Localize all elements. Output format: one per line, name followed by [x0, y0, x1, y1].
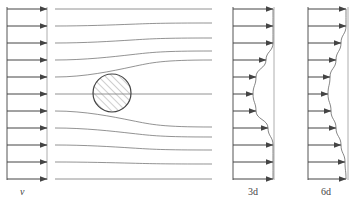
streamline: [55, 51, 212, 60]
streamline: [55, 60, 212, 77]
wake-6d-label: 6d: [321, 186, 331, 197]
cylinder-obstacle: [93, 74, 131, 112]
wake-profile-6d: [308, 7, 348, 180]
wake-profile-3d: [233, 7, 274, 180]
inlet-velocity-label: v: [20, 186, 25, 197]
streamline: [55, 111, 212, 127]
streamline: [55, 128, 212, 137]
velocity-profile-curve: [253, 9, 273, 179]
wake-3d-label: 3d: [248, 186, 258, 197]
cylinder-flow-diagram: v 3d 6d: [0, 0, 354, 201]
streamline: [55, 145, 212, 150]
velocity-profile-curve: [328, 9, 346, 179]
inlet-velocity-profile: [7, 7, 47, 180]
streamline: [55, 23, 212, 26]
streamline: [55, 162, 212, 164]
streamline: [55, 38, 212, 43]
streamline-field: [55, 9, 212, 179]
